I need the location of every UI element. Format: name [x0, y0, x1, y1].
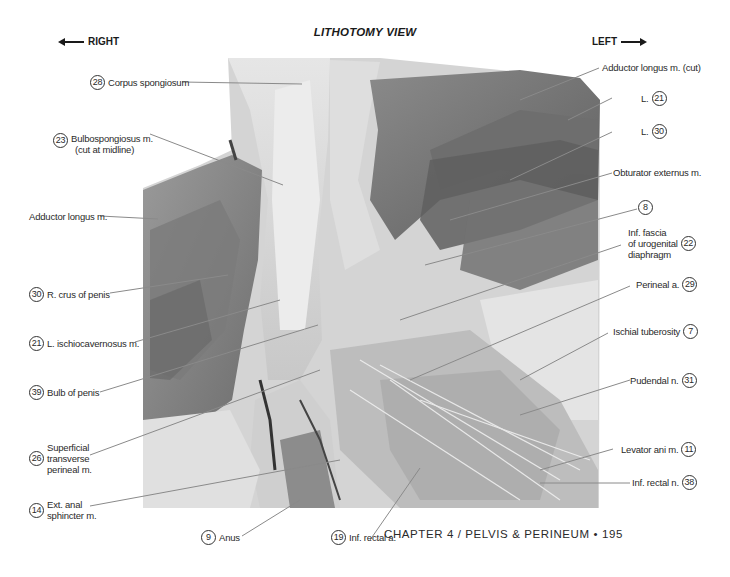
label-text: Levator ani m. [621, 444, 678, 455]
label-number: 31 [682, 373, 697, 388]
label-text-line2: transverse [47, 453, 92, 464]
label-number: 11 [681, 442, 696, 457]
right-label: RIGHT [88, 36, 119, 47]
label-text: Ext. anal [47, 499, 96, 510]
label-corpus-spongiosum: 28 Corpus spongiosum [90, 75, 189, 90]
label-levator-ani: Levator ani m. 11 [621, 442, 696, 457]
label-number: 21 [652, 91, 667, 106]
label-text: Ischial tuberosity [613, 326, 680, 337]
label-adductor-longus-right: Adductor longus m. [29, 211, 107, 222]
label-ischial-tuberosity: Ischial tuberosity 7 [613, 324, 698, 339]
label-text-line2: sphincter m. [47, 510, 96, 521]
arrow-right-icon [621, 41, 643, 43]
label-adductor-longus-cut: Adductor longus m. (cut) [602, 62, 701, 73]
label-text-line3: perineal m. [47, 464, 92, 475]
label-anus: 9 Anus [201, 530, 240, 545]
page-footer: CHAPTER 4 / PELVIS & PERINEUM • 195 [384, 528, 623, 540]
label-text: Bulb of penis [47, 387, 99, 398]
label-pudendal-n: Pudendal n. 31 [630, 373, 697, 388]
label-number: 39 [29, 385, 44, 400]
label-text: Pudendal n. [630, 375, 679, 386]
label-number: 22 [681, 236, 696, 251]
label-text: Corpus spongiosum [108, 77, 189, 88]
label-number: 8 [638, 200, 653, 215]
label-8: 8 [638, 200, 653, 215]
left-label: LEFT [592, 36, 617, 47]
label-number: 21 [29, 336, 44, 351]
label-text: Superficial [47, 442, 92, 453]
label-perineal-a: Perineal a. 29 [636, 277, 697, 292]
label-text: Bulbospongiosus m. [71, 133, 153, 144]
label-l-ischiocavernosus: 21 L. ischiocavernosus m. [29, 336, 139, 351]
label-number: 23 [53, 133, 68, 148]
label-superficial-transverse-perineal: 26 Superficial transverse perineal m. [29, 442, 92, 475]
label-text: Obturator externus m. [613, 167, 701, 178]
label-text: Inf. fascia [628, 227, 678, 238]
label-number: 19 [331, 530, 346, 545]
label-text: Adductor longus m. [29, 211, 107, 222]
label-number: 30 [652, 124, 667, 139]
label-number: 29 [682, 277, 697, 292]
label-ext-anal-sphincter: 14 Ext. anal sphincter m. [29, 499, 96, 521]
label-inf-rectal-n: Inf. rectal n. 38 [632, 475, 697, 490]
label-number: 14 [29, 503, 44, 518]
label-l-30: L. 30 [641, 124, 667, 139]
label-number: 26 [29, 451, 44, 466]
label-text: R. crus of penis [47, 289, 110, 300]
left-direction-indicator: LEFT [592, 36, 643, 47]
right-direction-indicator: RIGHT [62, 36, 119, 47]
label-text: Perineal a. [636, 279, 679, 290]
label-number: 28 [90, 75, 105, 90]
label-l-21: L. 21 [641, 91, 667, 106]
label-text-line2: of urogenital [628, 238, 678, 249]
label-obturator-externus: Obturator externus m. [613, 167, 701, 178]
label-text: L. [641, 126, 649, 137]
label-text: L. [641, 93, 649, 104]
label-bulb-of-penis: 39 Bulb of penis [29, 385, 99, 400]
label-number: 7 [683, 324, 698, 339]
label-number: 38 [682, 475, 697, 490]
label-text-line2: (cut at midline) [71, 144, 153, 155]
label-inf-fascia-urogenital-diaphragm: Inf. fascia of urogenital diaphragm 22 [628, 227, 696, 260]
label-text-line3: diaphragm [628, 249, 678, 260]
label-text: Anus [219, 532, 240, 543]
label-number: 9 [201, 530, 216, 545]
label-text: L. ischiocavernosus m. [47, 338, 139, 349]
arrow-left-icon [62, 41, 84, 43]
label-r-crus-of-penis: 30 R. crus of penis [29, 287, 110, 302]
label-text: Inf. rectal n. [632, 477, 679, 488]
label-text: Adductor longus m. (cut) [602, 62, 701, 73]
label-number: 30 [29, 287, 44, 302]
label-bulbospongiosus: 23 Bulbospongiosus m. (cut at midline) [53, 133, 153, 155]
